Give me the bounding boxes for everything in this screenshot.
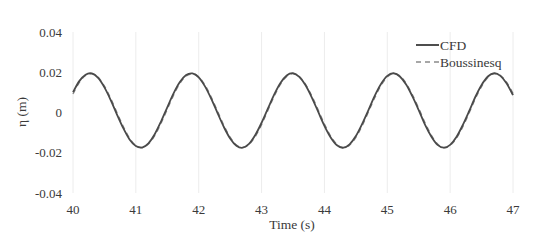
- x-tick-label: 45: [381, 202, 394, 217]
- y-axis-ticks: 0.040.020-0.02-0.04: [35, 25, 63, 201]
- x-tick-label: 44: [318, 202, 332, 217]
- y-axis-label: η (m): [14, 97, 29, 127]
- series-line-cfd: [73, 73, 513, 148]
- y-tick-label: -0.02: [35, 145, 62, 160]
- series-line-boussinesq: [73, 74, 513, 148]
- data-series: [73, 73, 513, 148]
- y-tick-label: -0.04: [35, 186, 63, 201]
- legend: CFD Boussinesq: [416, 38, 502, 70]
- legend-label-cfd: CFD: [440, 38, 467, 53]
- x-tick-label: 43: [255, 202, 268, 217]
- y-tick-label: 0.04: [39, 25, 62, 40]
- x-axis-ticks: 4041424344454647: [67, 202, 521, 217]
- x-tick-label: 47: [507, 202, 521, 217]
- y-tick-label: 0: [56, 105, 63, 120]
- legend-label-boussinesq: Boussinesq: [440, 55, 502, 70]
- x-tick-label: 42: [192, 202, 205, 217]
- x-tick-label: 46: [444, 202, 458, 217]
- x-tick-label: 40: [67, 202, 80, 217]
- x-axis-label: Time (s): [269, 217, 315, 232]
- wave-elevation-chart: 0.040.020-0.02-0.04 4041424344454647 η (…: [0, 0, 543, 232]
- y-tick-label: 0.02: [39, 65, 62, 80]
- x-tick-label: 41: [129, 202, 142, 217]
